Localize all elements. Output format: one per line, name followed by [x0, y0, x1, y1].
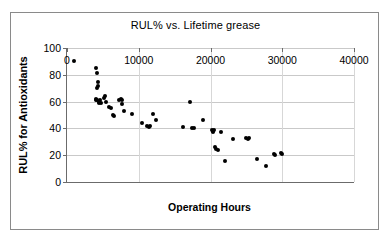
x-axis-tick: [139, 48, 140, 52]
data-point: [280, 152, 284, 156]
data-point: [181, 125, 185, 129]
x-axis-tick-label: 20000: [196, 54, 225, 66]
data-point: [219, 130, 223, 134]
chart-title: RUL% vs. Lifetime grease: [11, 19, 380, 31]
data-point: [99, 101, 103, 105]
data-point: [231, 137, 235, 141]
x-axis-tick: [67, 48, 68, 52]
data-point: [72, 59, 76, 63]
y-axis-tick-label: 0: [27, 176, 61, 188]
data-point: [188, 100, 192, 104]
data-point: [255, 157, 259, 161]
x-axis-tick-label: 0: [64, 54, 70, 66]
y-axis-tick: [63, 75, 67, 76]
y-axis-tick: [63, 155, 67, 156]
data-point: [140, 121, 144, 125]
y-axis-tick-label: 20: [27, 149, 61, 161]
gridline-vertical: [139, 48, 140, 182]
x-axis-tick: [282, 48, 283, 52]
data-point: [122, 109, 126, 113]
data-point: [95, 86, 99, 90]
chart-frame: RUL% vs. Lifetime grease RUL% for Antiox…: [10, 12, 379, 230]
data-point: [120, 102, 124, 106]
data-point: [109, 106, 113, 110]
data-point: [148, 124, 152, 128]
data-point: [264, 164, 268, 168]
y-axis-tick: [63, 182, 67, 183]
x-axis-title: Operating Hours: [66, 201, 353, 213]
plot-area: 020406080100010000200003000040000: [66, 48, 354, 183]
data-point: [154, 118, 158, 122]
data-point: [216, 148, 220, 152]
data-point: [211, 130, 215, 134]
gridline-vertical: [354, 48, 355, 182]
data-point: [103, 94, 107, 98]
y-axis-tick-label: 60: [27, 96, 61, 108]
y-axis-tick: [63, 128, 67, 129]
data-point: [247, 136, 251, 140]
data-point: [94, 66, 98, 70]
data-point: [95, 71, 99, 75]
y-axis-tick-label: 40: [27, 122, 61, 134]
x-axis-tick: [354, 48, 355, 52]
y-axis-tick: [63, 102, 67, 103]
x-axis-tick-label: 30000: [268, 54, 297, 66]
x-axis-tick-label: 10000: [124, 54, 153, 66]
x-axis-tick-label: 40000: [339, 54, 368, 66]
data-point: [273, 153, 277, 157]
data-point: [192, 126, 196, 130]
data-point: [223, 159, 227, 163]
gridline-vertical: [282, 48, 283, 182]
data-point: [151, 112, 155, 116]
data-point: [112, 114, 116, 118]
y-axis-tick-label: 100: [27, 42, 61, 54]
data-point: [130, 112, 134, 116]
y-axis-tick-label: 80: [27, 69, 61, 81]
data-point: [201, 118, 205, 122]
gridline-vertical: [211, 48, 212, 182]
data-point: [104, 100, 108, 104]
x-axis-tick: [211, 48, 212, 52]
